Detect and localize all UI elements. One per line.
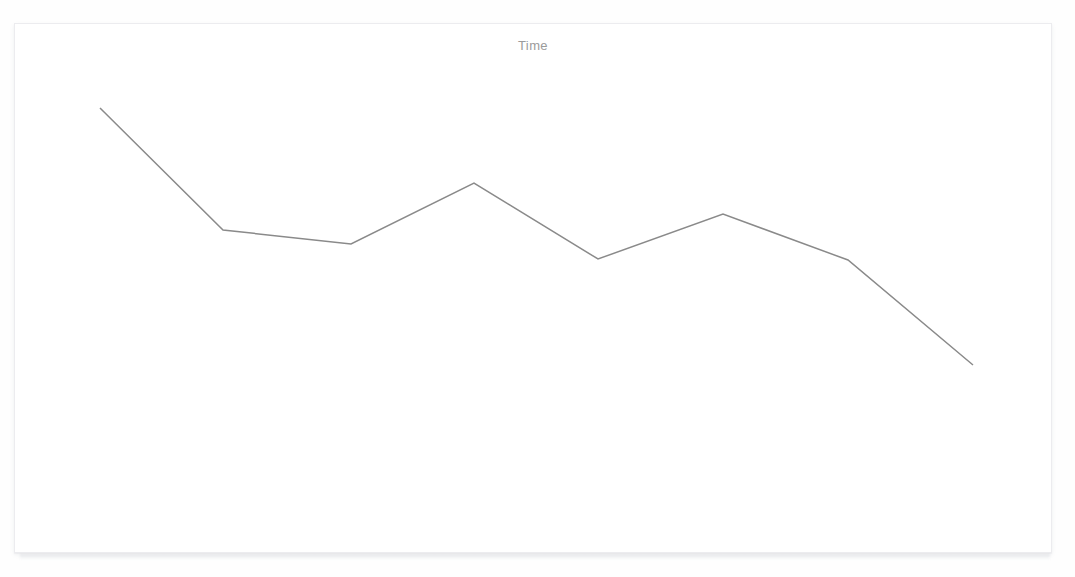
page-root: Time: [0, 0, 1075, 577]
plot-area: [15, 24, 1053, 554]
chart-card: Time: [14, 23, 1052, 553]
data-series-line: [100, 108, 973, 365]
card-drop-shadow: [20, 554, 1050, 560]
line-chart-svg: [15, 24, 1053, 554]
